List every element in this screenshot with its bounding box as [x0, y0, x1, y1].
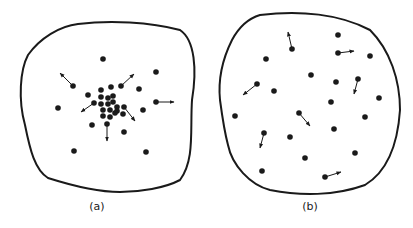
particle	[261, 130, 267, 136]
particle	[302, 155, 308, 161]
particle	[140, 107, 146, 113]
particle	[328, 99, 334, 105]
particle	[296, 110, 302, 116]
particle	[110, 93, 116, 99]
panel-label: (a)	[89, 200, 104, 213]
particle	[100, 107, 106, 113]
particle	[136, 86, 142, 92]
particle	[121, 104, 127, 110]
particle	[70, 83, 76, 89]
particle	[98, 94, 104, 100]
particle	[108, 84, 114, 90]
particle	[100, 56, 106, 62]
particle	[333, 79, 339, 85]
particle	[335, 32, 341, 38]
container-outline	[21, 22, 195, 192]
particle	[153, 69, 159, 75]
container-outline	[220, 13, 401, 194]
diffusion-diagram: (a)(b)	[0, 0, 413, 228]
particle	[120, 111, 126, 117]
panel-a: (a)	[21, 22, 195, 213]
particle	[85, 92, 91, 98]
particle	[105, 95, 111, 101]
particle	[91, 100, 97, 106]
particle	[331, 126, 337, 132]
particle	[263, 56, 269, 62]
particle	[362, 114, 368, 120]
particle	[143, 149, 149, 155]
particle	[259, 168, 265, 174]
particle	[100, 113, 106, 119]
particle	[98, 101, 104, 107]
particle	[71, 148, 77, 154]
particle	[322, 174, 328, 180]
particle	[376, 95, 382, 101]
particle	[121, 129, 127, 135]
particle	[335, 50, 341, 56]
particle	[153, 99, 159, 105]
particle	[98, 87, 104, 93]
particle	[105, 101, 111, 107]
particle	[355, 76, 361, 82]
particle	[112, 110, 118, 116]
particle	[254, 81, 260, 87]
particle	[89, 122, 95, 128]
panel-label: (b)	[302, 200, 318, 213]
panel-b: (b)	[220, 13, 401, 213]
particle	[352, 150, 358, 156]
particle	[289, 46, 295, 52]
particle	[308, 72, 314, 78]
particle	[367, 53, 373, 59]
particle	[110, 99, 116, 105]
particle	[55, 105, 61, 111]
particle	[271, 88, 277, 94]
particle	[104, 121, 110, 127]
particle	[107, 107, 113, 113]
particle	[287, 134, 293, 140]
particle	[107, 114, 113, 120]
particle	[232, 113, 238, 119]
particle	[118, 83, 124, 89]
